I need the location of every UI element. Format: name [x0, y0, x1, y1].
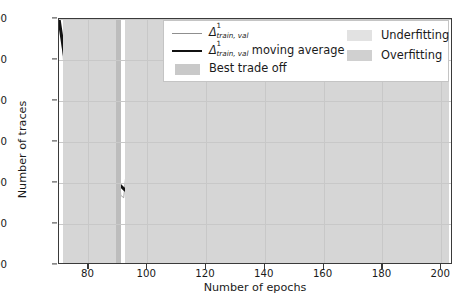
x-tick-mark [440, 264, 441, 269]
x-tick-label: 120 [185, 268, 225, 279]
gridline-horizontal [59, 224, 451, 225]
region-best-trade-off [116, 19, 121, 263]
gridline-horizontal [59, 183, 451, 184]
legend-label-best-trade-off: Best trade off [209, 63, 287, 74]
gridline-horizontal [59, 101, 451, 102]
x-tick-label: 200 [420, 268, 460, 279]
legend-item-best-trade-off: Best trade off [171, 61, 343, 77]
y-tick-mark [52, 222, 57, 223]
y-tick-label: 350 [0, 54, 7, 65]
region-underfitting [63, 19, 116, 263]
legend: Δ1train, val Δ1train, val moving average [163, 20, 449, 82]
legend-key-thick-line-icon [171, 45, 203, 58]
y-axis-label: Number of traces [16, 60, 29, 240]
y-tick-mark [52, 99, 57, 100]
y-tick-label: 250 [0, 136, 7, 147]
legend-column-right: Underfitting Overfitting [343, 25, 449, 77]
legend-label-underfitting: Underfitting [381, 30, 449, 41]
x-tick-label: 160 [303, 268, 343, 279]
delta-symbol-icon: Δ1train, val [209, 27, 217, 38]
x-tick-mark [146, 264, 147, 269]
gridline-vertical [147, 19, 148, 263]
x-tick-label: 100 [126, 268, 166, 279]
legend-key-patch-icon [343, 29, 375, 42]
y-tick-mark [52, 17, 57, 18]
legend-item-underfitting: Underfitting [343, 27, 449, 44]
legend-key-thin-line-icon [171, 27, 203, 40]
legend-key-patch-icon [171, 63, 203, 76]
y-tick-mark [52, 263, 57, 264]
y-tick-mark [52, 140, 57, 141]
legend-label-delta-raw: Δ1train, val [209, 27, 252, 38]
x-tick-mark [264, 264, 265, 269]
x-tick-label: 180 [361, 268, 401, 279]
delta-symbol-icon: Δ1train, val [209, 45, 217, 56]
x-axis-label: Number of epochs [58, 281, 452, 294]
legend-label-overfitting: Overfitting [381, 50, 442, 61]
x-tick-label: 140 [244, 268, 284, 279]
gridline-vertical [88, 19, 89, 263]
legend-label-delta-moving-average: Δ1train, val moving average [209, 45, 344, 56]
x-tick-mark [323, 264, 324, 269]
legend-key-patch-icon [343, 49, 375, 62]
y-tick-mark [52, 58, 57, 59]
legend-item-delta-moving-average: Δ1train, val moving average [171, 43, 343, 59]
y-tick-label: 400 [0, 13, 7, 24]
y-tick-label: 150 [0, 218, 7, 229]
y-tick-label: 300 [0, 95, 7, 106]
x-tick-mark [87, 264, 88, 269]
legend-item-overfitting: Overfitting [343, 47, 449, 64]
x-tick-mark [381, 264, 382, 269]
legend-item-delta-raw: Δ1train, val [171, 25, 343, 41]
y-tick-label: 100 [0, 259, 7, 270]
gridline-horizontal [59, 142, 451, 143]
y-tick-mark [52, 181, 57, 182]
legend-column-left: Δ1train, val Δ1train, val moving average [171, 25, 343, 77]
figure-chart: Number of traces Number of epochs 100150… [0, 0, 468, 302]
y-tick-label: 200 [0, 177, 7, 188]
x-tick-label: 80 [67, 268, 107, 279]
x-tick-mark [205, 264, 206, 269]
